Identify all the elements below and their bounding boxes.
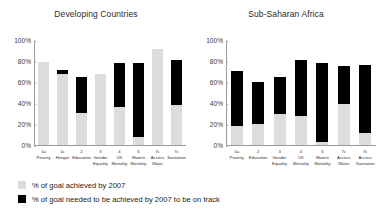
bar-stack	[133, 41, 144, 145]
x-tick-label: 2 Education	[72, 147, 91, 171]
y-tick-label: 100%	[14, 38, 34, 45]
y-tick-label: 100%	[206, 38, 226, 45]
x-tick-label: 7c Access Sanitation	[355, 147, 376, 171]
bar-segment-achieved	[359, 133, 371, 145]
bar-segment-achieved	[231, 126, 243, 145]
bar-group-sub-saharan-africa	[226, 41, 376, 145]
bar-stack	[152, 41, 163, 145]
bar-segment-achieved	[316, 142, 328, 145]
mdg-progress-figure: Developing Countries 100%80%60%40%20%0% …	[0, 0, 380, 216]
bar-segment-needed	[133, 63, 144, 137]
legend-swatch-achieved-icon	[18, 181, 26, 189]
bar-column	[333, 41, 354, 145]
x-tick-label: 7c Sanitation	[167, 147, 186, 171]
bar-column	[34, 41, 53, 145]
x-axis-labels-sub-saharan-africa: 1a Poverty2 Education3 Gender Equality4 …	[226, 147, 376, 171]
chart-title-sub-saharan-africa: Sub-Saharan Africa	[192, 9, 380, 19]
y-tick-label: 40%	[210, 101, 226, 108]
bar-column	[110, 41, 129, 145]
bar-stack	[171, 41, 182, 145]
x-tick-label: 3 Gender Equality	[269, 147, 290, 171]
x-tick-label: 7c Access Water	[148, 147, 167, 171]
x-tick-label: 4 U5 Mortality	[110, 147, 129, 171]
bar-stack	[114, 41, 125, 145]
y-tick-label: 0%	[21, 143, 34, 150]
x-tick-label: 7c Access Water	[333, 147, 354, 171]
y-tick-label: 0%	[213, 143, 226, 150]
bar-stack	[338, 41, 350, 145]
y-tick-label: 40%	[18, 101, 34, 108]
bar-column	[91, 41, 110, 145]
x-axis-line-left	[34, 145, 186, 146]
bar-segment-needed	[231, 71, 243, 126]
chart-panel-sub-saharan-africa: Sub-Saharan Africa 100%80%60%40%20%0% 1a…	[192, 0, 380, 172]
bar-segment-needed	[338, 66, 350, 104]
bar-segment-achieved	[152, 49, 163, 145]
chart-panel-developing-countries: Developing Countries 100%80%60%40%20%0% …	[0, 0, 192, 172]
bar-segment-achieved	[57, 74, 68, 145]
bar-column	[226, 41, 247, 145]
bar-stack	[76, 41, 87, 145]
x-tick-label: 1c Hunger	[53, 147, 72, 171]
legend-item-needed: % of goal needed to be achieved by 2007 …	[18, 192, 358, 206]
x-tick-label: 2 Education	[247, 147, 268, 171]
bar-column	[167, 41, 186, 145]
bar-column	[355, 41, 376, 145]
bar-segment-achieved	[95, 74, 106, 145]
bar-segment-achieved	[274, 114, 286, 145]
bar-segment-needed	[252, 82, 264, 125]
bar-stack	[57, 41, 68, 145]
y-tick-label: 80%	[210, 59, 226, 66]
bar-stack	[295, 41, 307, 145]
bar-stack	[38, 41, 49, 145]
bar-segment-needed	[359, 65, 371, 133]
x-axis-labels-developing-countries: 1a Poverty1c Hunger2 Education3 Gender E…	[34, 147, 186, 171]
bar-column	[72, 41, 91, 145]
bar-segment-needed	[316, 63, 328, 142]
legend-label-achieved: % of goal achieved by 2007	[32, 181, 125, 190]
plot-area-sub-saharan-africa: 100%80%60%40%20%0%	[226, 41, 376, 146]
y-tick-label: 60%	[18, 80, 34, 87]
bar-segment-achieved	[38, 62, 49, 145]
bar-column	[269, 41, 290, 145]
bar-segment-achieved	[338, 104, 350, 145]
bar-stack	[95, 41, 106, 145]
bar-segment-needed	[76, 77, 87, 112]
bar-segment-achieved	[171, 105, 182, 145]
y-tick-label: 80%	[18, 59, 34, 66]
legend-item-achieved: % of goal achieved by 2007	[18, 178, 358, 192]
x-tick-label: 4 U5 Mortality	[290, 147, 311, 171]
bar-segment-achieved	[76, 113, 87, 145]
x-tick-label: 1a Poverty	[34, 147, 53, 171]
bar-column	[312, 41, 333, 145]
legend-swatch-needed-icon	[18, 195, 26, 203]
bar-stack	[231, 41, 243, 145]
bar-segment-achieved	[114, 107, 125, 145]
bar-stack	[316, 41, 328, 145]
y-tick-label: 60%	[210, 80, 226, 87]
bar-segment-needed	[114, 63, 125, 107]
bar-column	[53, 41, 72, 145]
bar-segment-achieved	[133, 137, 144, 145]
plot-area-developing-countries: 100%80%60%40%20%0%	[34, 41, 186, 146]
bar-segment-needed	[171, 60, 182, 106]
bar-segment-achieved	[295, 116, 307, 145]
bar-segment-achieved	[252, 124, 264, 145]
bar-segment-needed	[274, 77, 286, 113]
bar-column	[148, 41, 167, 145]
bar-stack	[359, 41, 371, 145]
bar-column	[129, 41, 148, 145]
chart-legend: % of goal achieved by 2007 % of goal nee…	[18, 178, 358, 206]
y-tick-label: 20%	[210, 122, 226, 129]
x-axis-line-right	[226, 145, 376, 146]
bar-group-developing-countries	[34, 41, 186, 145]
x-tick-label: 3 Gender Equality	[91, 147, 110, 171]
bar-stack	[252, 41, 264, 145]
bar-segment-needed	[295, 60, 307, 116]
bar-column	[290, 41, 311, 145]
bar-stack	[274, 41, 286, 145]
y-tick-label: 20%	[18, 122, 34, 129]
legend-label-needed: % of goal needed to be achieved by 2007 …	[32, 195, 220, 204]
x-tick-label: 5 Matern Mortality	[129, 147, 148, 171]
x-tick-label: 1a Poverty	[226, 147, 247, 171]
